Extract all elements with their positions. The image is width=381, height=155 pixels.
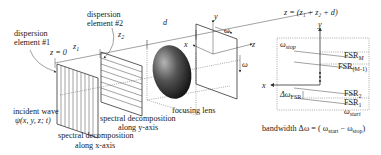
label-d: d <box>163 18 168 27</box>
label-omega-start: ωstart <box>344 107 361 117</box>
dispersion-element-1 <box>57 64 98 138</box>
bandwidth-formula: bandwidth Δω = ( ωstart − ωstop) <box>262 124 366 134</box>
label-z0: z = 0 <box>49 48 67 57</box>
label-incident-line2: ψ(x, y, z; t) <box>15 116 51 125</box>
label-z1: z1 <box>72 42 79 52</box>
label-omega-side: ω <box>242 60 248 69</box>
right-axis-y: y <box>317 20 322 29</box>
label-axis-y: y <box>213 12 218 21</box>
label-fsr-M-1: FSR(M-1) <box>338 62 367 73</box>
label-spec-x-line1: spectral decomposition <box>58 131 134 140</box>
label-omega-stop: ωstop <box>280 40 296 50</box>
dispersion-element-2 <box>101 52 142 116</box>
label-delta-fsr: ΔωFSR <box>279 90 301 100</box>
right-title: z = (z₁ + z₂ + d) <box>283 8 338 17</box>
label-element2-line2: element #2 <box>87 19 123 28</box>
label-incident-line1: incident wave <box>13 107 59 116</box>
focusing-lens <box>148 42 196 103</box>
right-axis-x: x <box>261 81 266 90</box>
label-z2: z2 <box>117 30 124 40</box>
label-axis-z: z <box>251 40 256 49</box>
label-element1-line1: dispersion <box>14 29 48 38</box>
label-omega-top: ω <box>224 26 230 35</box>
label-spec-x-line2: along x-axis <box>75 141 115 150</box>
label-axis-x: x <box>183 40 188 49</box>
label-fsr-M: FSRM <box>344 51 365 61</box>
label-spec-y-line1: spectral decomposition <box>100 114 176 123</box>
label-element1-line2: element #1 <box>14 38 50 47</box>
label-focusing-lens: focusing lens <box>172 106 215 115</box>
label-element2-line1: dispersion <box>87 10 121 19</box>
optical-spectral-decomposition-diagram: dispersion element #1 dispersion element… <box>0 0 381 155</box>
right-figure: z = (z₁ + z₂ + d) y x ωstop FSRM FSR(M-1… <box>261 8 369 134</box>
